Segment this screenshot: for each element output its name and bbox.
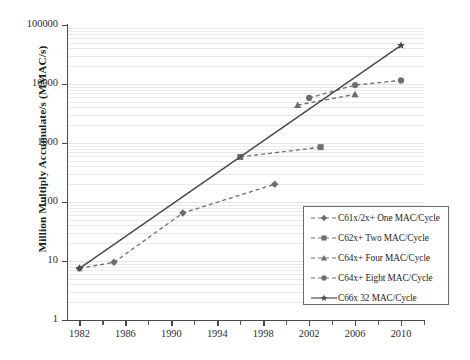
- data-point-diamond: [179, 209, 186, 216]
- series-3: [306, 77, 404, 101]
- legend-label: C62x+ Two MAC/Cycle: [338, 233, 429, 243]
- data-point-circle: [398, 77, 404, 83]
- legend-label: C61x/2x+ One MAC/Cycle: [338, 213, 440, 223]
- data-point-square: [321, 235, 326, 240]
- legend-item[interactable]: C64x+ Eight MAC/Cycle: [304, 269, 448, 288]
- series-line: [298, 94, 355, 105]
- legend-item[interactable]: C64x+ Four MAC/Cycle: [304, 248, 448, 267]
- chart-container: Million Multiply Accumulate/s (MMAC/s) 1…: [0, 0, 470, 360]
- legend-item[interactable]: C66x 32 MAC/Cycle: [304, 289, 448, 308]
- series-1: [237, 144, 323, 160]
- legend-label: C66x 32 MAC/Cycle: [338, 293, 417, 303]
- data-point-diamond: [321, 214, 327, 220]
- legend-swatch-star-icon: [310, 291, 338, 305]
- legend: C61x/2x+ One MAC/CycleC62x+ Two MAC/Cycl…: [303, 206, 449, 305]
- legend-swatch-triangle-icon: [310, 251, 338, 265]
- legend-label: C64x+ Four MAC/Cycle: [338, 253, 430, 263]
- legend-item[interactable]: C62x+ Two MAC/Cycle: [304, 228, 448, 247]
- legend-swatch-diamond-icon: [310, 211, 338, 225]
- data-point-circle: [306, 95, 312, 101]
- data-point-star: [321, 295, 328, 301]
- data-point-diamond: [271, 181, 278, 188]
- legend-swatch-circle-icon: [310, 271, 338, 285]
- data-point-square: [318, 144, 324, 150]
- data-point-circle: [321, 276, 326, 281]
- legend-label: C64x+ Eight MAC/Cycle: [338, 273, 433, 283]
- data-point-circle: [352, 82, 358, 88]
- series-0: [76, 181, 279, 273]
- legend-swatch-square-icon: [310, 231, 338, 245]
- series-line: [79, 184, 274, 268]
- data-point-triangle: [351, 91, 358, 97]
- legend-item[interactable]: C61x/2x+ One MAC/Cycle: [304, 208, 448, 227]
